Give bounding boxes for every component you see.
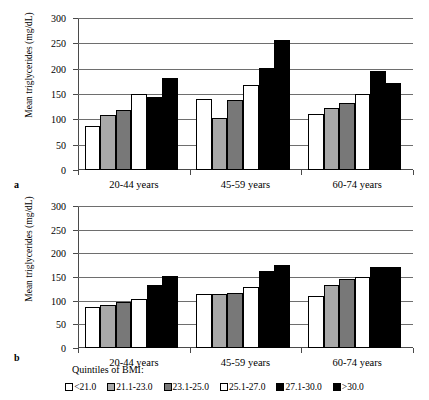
x-tick-mark: [78, 170, 79, 175]
x-category-label: 60-74 years: [333, 357, 382, 368]
legend-swatch-icon: [220, 383, 228, 391]
bar: [243, 85, 259, 170]
bar: [355, 277, 371, 348]
y-tick-label: 50: [56, 141, 66, 151]
y-tick-label: 50: [56, 320, 66, 330]
y-tick-label: 100: [51, 297, 66, 307]
legend-item: >30.0: [333, 382, 364, 392]
bar: [324, 108, 340, 170]
bar: [131, 94, 147, 170]
x-category-label: 45-59 years: [221, 357, 270, 368]
bar: [162, 78, 178, 170]
bar: [227, 100, 243, 170]
y-tick-label: 250: [51, 226, 66, 236]
legend-swatch-icon: [107, 383, 115, 391]
legend-item: 25.1-27.0: [220, 382, 265, 392]
y-axis-title-a: Mean triglycerides (mg/dL): [24, 0, 34, 140]
legend-label: 25.1-27.0: [229, 382, 265, 392]
x-tick-mark: [301, 348, 302, 353]
y-tick-label: 0: [61, 166, 66, 176]
bar: [100, 305, 116, 348]
legend-label: >30.0: [342, 382, 364, 392]
figure-root: a Mean triglycerides (mg/dL) 05010015020…: [0, 0, 429, 400]
legend-swatch-icon: [65, 383, 73, 391]
bar: [308, 114, 324, 170]
x-category-label: 60-74 years: [333, 179, 382, 190]
panel-a: a Mean triglycerides (mg/dL) 05010015020…: [0, 4, 429, 194]
x-tick-mark: [413, 170, 414, 175]
legend-title: Quintiles of BMI:: [72, 364, 144, 375]
y-tick-label: 200: [51, 249, 66, 259]
bar: [259, 271, 275, 348]
bar: [274, 40, 290, 170]
y-tick-label: 300: [51, 202, 66, 212]
bar: [147, 285, 163, 348]
y-tick-label: 300: [51, 14, 66, 24]
legend-item: 23.1-25.0: [164, 382, 209, 392]
x-tick-mark: [190, 348, 191, 353]
x-tick-mark: [78, 348, 79, 353]
panel-b: b Mean triglycerides (mg/dL) 05010015020…: [0, 198, 429, 368]
bar: [131, 299, 147, 348]
bar: [324, 285, 340, 348]
y-axis-title-b: Mean triglycerides (mg/dL): [24, 174, 34, 324]
bar: [227, 293, 243, 348]
y-tick-label: 0: [61, 344, 66, 354]
x-category-label: 45-59 years: [221, 179, 270, 190]
x-category-label: 20-44 years: [109, 179, 158, 190]
bar: [274, 265, 290, 348]
bar: [196, 294, 212, 348]
bar: [85, 126, 101, 170]
bar: [259, 68, 275, 170]
bar: [370, 71, 386, 170]
legend-item: 27.1-30.0: [276, 382, 321, 392]
bar: [116, 110, 132, 170]
bar: [162, 276, 178, 348]
bar: [100, 115, 116, 170]
y-tick-label: 250: [51, 39, 66, 49]
bar: [370, 267, 386, 348]
bar: [196, 99, 212, 170]
panel-label-b: b: [14, 353, 20, 363]
plot-area-a: 050100150200250300 20-44 years45-59 year…: [78, 18, 413, 170]
bar: [147, 97, 163, 170]
bar: [355, 94, 371, 170]
y-tick-label: 100: [51, 115, 66, 125]
bar: [243, 287, 259, 348]
bar: [339, 279, 355, 348]
bar: [116, 302, 132, 348]
y-tick-label: 200: [51, 65, 66, 75]
y-tick-label: 150: [51, 273, 66, 283]
bar: [212, 118, 228, 170]
bar: [339, 103, 355, 170]
legend-item: <21.0: [65, 382, 96, 392]
legend-label: <21.0: [74, 382, 96, 392]
legend-label: 27.1-30.0: [285, 382, 321, 392]
bar: [212, 294, 228, 348]
legend-label: 21.1-23.0: [116, 382, 152, 392]
bars-layer-b: [78, 206, 413, 348]
legend-swatch-icon: [164, 383, 172, 391]
panel-label-a: a: [14, 180, 19, 190]
legend-swatch-icon: [333, 383, 341, 391]
x-tick-mark: [301, 170, 302, 175]
legend-swatch-icon: [276, 383, 284, 391]
bar: [308, 296, 324, 348]
bar: [386, 267, 402, 348]
legend-item: 21.1-23.0: [107, 382, 152, 392]
plot-area-b: 050100150200250300 20-44 years45-59 year…: [78, 206, 413, 348]
x-tick-mark: [413, 348, 414, 353]
bar: [85, 307, 101, 348]
legend-items: <21.021.1-23.023.1-25.025.1-27.027.1-30.…: [0, 382, 429, 392]
y-tick-label: 150: [51, 90, 66, 100]
bar: [386, 83, 402, 170]
legend-label: 23.1-25.0: [173, 382, 209, 392]
x-tick-mark: [190, 170, 191, 175]
bars-layer-a: [78, 18, 413, 170]
